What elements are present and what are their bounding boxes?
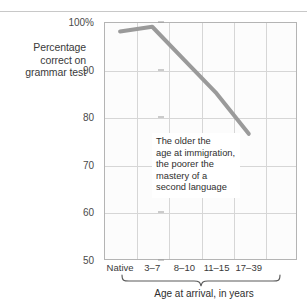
chart-figure: Percentage correct on grammar test 100%9…: [0, 0, 307, 308]
y-axis-tick-label: 80: [83, 112, 94, 123]
top-divider-rule: [0, 11, 307, 12]
annotation-line-1: The older the: [156, 136, 236, 148]
y-axis-tick-label: 60: [83, 207, 94, 218]
x-axis-brace-icon: [120, 274, 282, 287]
annotation-line-3: the poorer the: [156, 159, 236, 171]
y-axis-tick-label: 70: [83, 159, 94, 170]
annotation-line-4: mastery of a: [156, 171, 236, 183]
chart-annotation-callout: The older the age at immigration, the po…: [152, 133, 240, 198]
x-axis-tick-label: Native: [107, 262, 134, 273]
x-axis-tick-label: 17–39: [236, 262, 262, 273]
y-axis-tick-label: 100%: [68, 17, 94, 28]
x-axis-tick-label: 11–15: [204, 262, 230, 273]
annotation-line-2: age at immigration,: [156, 148, 236, 160]
series-line: [120, 27, 249, 134]
x-axis-tick-label: 3–7: [144, 262, 160, 273]
x-axis-title: Age at arrival, in years: [104, 288, 304, 299]
y-axis-tick-label: 90: [83, 64, 94, 75]
annotation-line-5: second language: [156, 182, 236, 194]
y-axis-tick-labels: 100%9080706050: [60, 22, 100, 260]
x-axis-tick-label: 8–10: [174, 262, 195, 273]
y-axis-tick-label: 50: [83, 255, 94, 266]
